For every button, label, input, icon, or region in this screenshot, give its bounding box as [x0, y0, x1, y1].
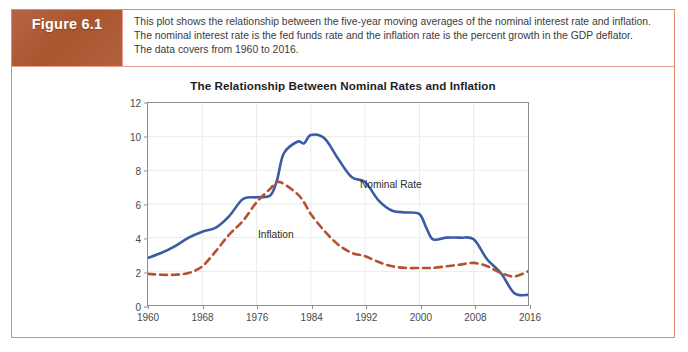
y-tick-label: 6 — [135, 200, 141, 211]
y-tick-label: 8 — [135, 166, 141, 177]
chart-body: The Relationship Between Nominal Rates a… — [12, 67, 674, 338]
x-tick-mark — [475, 305, 476, 309]
y-tick-label: 0 — [135, 302, 141, 313]
figure-number-badge: Figure 6.1 — [12, 10, 122, 66]
figure-caption: This plot shows the relationship between… — [122, 10, 674, 66]
y-tick-mark — [144, 205, 148, 206]
series-annotation-nominal-rate: Nominal Rate — [360, 179, 422, 190]
gridlines — [148, 103, 528, 305]
x-tick-label: 2008 — [464, 312, 486, 323]
x-tick-label: 1960 — [137, 312, 159, 323]
x-tick-mark — [148, 305, 149, 309]
x-tick-label: 1984 — [301, 312, 323, 323]
x-tick-label: 1992 — [355, 312, 377, 323]
y-tick-mark — [144, 103, 148, 104]
x-tick-mark — [312, 305, 313, 309]
y-tick-mark — [144, 239, 148, 240]
x-tick-label: 1976 — [246, 312, 268, 323]
y-tick-label: 10 — [130, 132, 141, 143]
x-tick-mark — [421, 305, 422, 309]
figure-header: Figure 6.1 This plot shows the relations… — [12, 10, 674, 67]
y-tick-label: 4 — [135, 234, 141, 245]
caption-line-3: The data covers from 1960 to 2016. — [134, 43, 664, 57]
x-tick-label: 1968 — [191, 312, 213, 323]
y-tick-label: 2 — [135, 268, 141, 279]
caption-line-1: This plot shows the relationship between… — [134, 15, 664, 29]
x-tick-label: 2016 — [519, 312, 541, 323]
caption-line-2: The nominal interest rate is the fed fun… — [134, 29, 664, 43]
y-tick-mark — [144, 171, 148, 172]
x-tick-mark — [366, 305, 367, 309]
series-line-inflation — [148, 182, 528, 277]
x-tick-mark — [257, 305, 258, 309]
x-tick-mark — [203, 305, 204, 309]
plot-svg — [148, 103, 528, 305]
y-tick-mark — [144, 273, 148, 274]
y-tick-mark — [144, 137, 148, 138]
series-annotation-inflation: Inflation — [258, 229, 294, 240]
plot-area: 0246810121960196819761984199220002008201… — [147, 102, 529, 306]
figure-number-label: Figure 6.1 — [32, 16, 103, 32]
chart-title: The Relationship Between Nominal Rates a… — [12, 79, 674, 92]
x-tick-label: 2000 — [410, 312, 432, 323]
y-tick-label: 12 — [130, 98, 141, 109]
figure-card: Figure 6.1 This plot shows the relations… — [11, 9, 675, 338]
x-tick-mark — [530, 305, 531, 309]
